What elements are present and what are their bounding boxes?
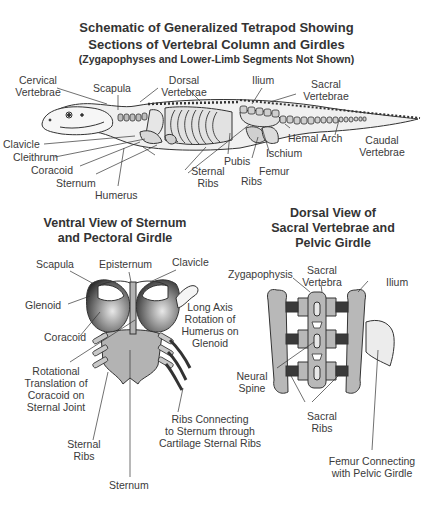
label-text: Cervical <box>10 74 66 86</box>
label-neural-spine: Neural Spine <box>232 370 272 394</box>
label-text: Vertebrae <box>10 86 66 98</box>
label-dorsal-vertebrae: Dorsal Vertebrae <box>154 74 214 98</box>
label-glenoid: Glenoid <box>25 299 61 311</box>
label-long-axis-rotation: Long Axis Rotation of Humerus on Glenoid <box>178 301 242 349</box>
label-text: Cartilage Sternal Ribs <box>154 437 266 449</box>
label-clavicle-ventral: Clavicle <box>172 256 209 268</box>
label-text: Long Axis <box>178 301 242 313</box>
label-text: Glenoid <box>178 337 242 349</box>
label-text: Humerus on <box>178 325 242 337</box>
label-text: Ribs <box>188 177 228 189</box>
label-femur: Femur <box>259 165 289 177</box>
label-femur-connecting: Femur Connecting with Pelvic Girdle <box>316 455 428 479</box>
label-text: Vertebrae <box>154 86 214 98</box>
label-sacral-ribs: Sacral Ribs <box>302 410 342 434</box>
title-text: Dorsal View of <box>238 206 428 221</box>
label-rotational-translation: Rotational Translation of Coracoid on St… <box>20 365 92 413</box>
label-caudal-vertebrae: Caudal Vertebrae <box>354 134 410 158</box>
label-text: Vertebrae <box>296 90 356 102</box>
label-text: Sternal <box>64 438 104 450</box>
label-text: Sacral <box>296 78 356 90</box>
label-sacral-vertebra: Sacral Vertebra <box>300 264 344 288</box>
label-text: to Sternum through <box>154 425 266 437</box>
label-sternum: Sternum <box>56 177 96 189</box>
label-text: Vertebrae <box>354 146 410 158</box>
label-text: Sternal Joint <box>20 401 92 413</box>
label-text: Translation of <box>20 377 92 389</box>
label-text: Femur Connecting <box>316 455 428 467</box>
label-sacral-vertebrae: Sacral Vertebrae <box>296 78 356 102</box>
label-text: Vertebra <box>300 276 344 288</box>
label-pubis: Pubis <box>224 155 250 167</box>
label-text: Dorsal <box>154 74 214 86</box>
label-ilium: Ilium <box>252 74 274 86</box>
label-episternum: Episternum <box>99 258 152 270</box>
label-sternum-ventral: Sternum <box>109 479 149 491</box>
label-text: Sternal <box>188 165 228 177</box>
label-hemal-arch: Hemal Arch <box>288 132 342 144</box>
label-clavicle: Clavicle <box>3 138 40 150</box>
label-text: Spine <box>232 382 272 394</box>
ventral-view-title: Ventral View of Sternum and Pectoral Gir… <box>20 216 210 246</box>
label-cleithrum: Cleithrum <box>13 151 58 163</box>
title-text: Pelvic Girdle <box>238 236 428 251</box>
label-scapula-ventral: Scapula <box>36 258 74 270</box>
label-text: Coracoid on <box>20 389 92 401</box>
label-text: Caudal <box>354 134 410 146</box>
label-text: Sacral <box>302 410 342 422</box>
label-zygapophysis: Zygapophysis <box>228 268 293 280</box>
label-text: with Pelvic Girdle <box>316 467 428 479</box>
label-ischium: Ischium <box>266 147 302 159</box>
label-text: Ribs <box>64 450 104 462</box>
label-text: Neural <box>232 370 272 382</box>
label-text: Sacral <box>300 264 344 276</box>
label-cervical-vertebrae: Cervical Vertebrae <box>10 74 66 98</box>
label-humerus: Humerus <box>95 189 138 201</box>
label-text: Rotation of <box>178 313 242 325</box>
label-text: Rotational <box>20 365 92 377</box>
dorsal-view-title: Dorsal View of Sacral Vertebrae and Pelv… <box>238 206 428 251</box>
title-text: Ventral View of Sternum <box>20 216 210 231</box>
title-text: and Pectoral Girdle <box>20 231 210 246</box>
title-text: Sacral Vertebrae and <box>238 221 428 236</box>
label-coracoid: Coracoid <box>31 164 73 176</box>
label-text: Ribs <box>302 422 342 434</box>
label-coracoid-ventral: Coracoid <box>44 331 86 343</box>
label-ribs-connecting: Ribs Connecting to Sternum through Carti… <box>154 413 266 449</box>
label-ilium-dorsal: Ilium <box>386 276 408 288</box>
label-text: Ribs Connecting <box>154 413 266 425</box>
label-scapula: Scapula <box>93 82 131 94</box>
label-sternal-ribs: Sternal Ribs <box>188 165 228 189</box>
label-sternal-ribs-ventral: Sternal Ribs <box>64 438 104 462</box>
